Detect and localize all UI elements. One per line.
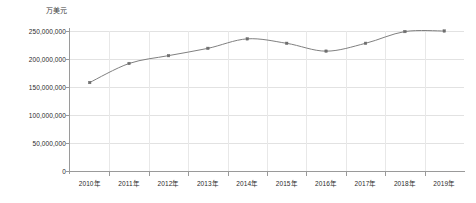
x-axis-tick-mark — [306, 172, 307, 176]
y-axis-tick-label: 250,000,000 — [4, 28, 66, 35]
gridline-vertical — [306, 31, 307, 171]
y-axis-tick-label: 150,000,000 — [4, 84, 66, 91]
x-axis-tick-mark — [425, 172, 426, 176]
line-chart: 万美元 050,000,000100,000,000150,000,000200… — [0, 0, 476, 203]
y-axis-tick-mark — [66, 59, 70, 60]
y-axis-tick-label: 0 — [4, 168, 66, 175]
x-axis-tick-mark — [109, 172, 110, 176]
y-axis-tick-mark — [66, 115, 70, 116]
x-axis-tick-label: 2014年 — [236, 178, 258, 188]
y-axis-tick-mark — [66, 87, 70, 88]
x-axis-tick-label: 2012年 — [158, 178, 180, 188]
y-axis-tick-mark — [66, 143, 70, 144]
x-axis-tick-mark — [188, 172, 189, 176]
x-axis-tick-mark — [385, 172, 386, 176]
y-axis-tick-mark — [66, 31, 70, 32]
x-axis-tick-label: 2011年 — [118, 178, 139, 188]
x-axis-tick-label: 2013年 — [197, 178, 219, 188]
x-axis-tick-label: 2018年 — [394, 178, 416, 188]
gridline-vertical — [425, 31, 426, 171]
gridline-vertical — [267, 31, 268, 171]
x-axis-tick-label: 2017年 — [355, 178, 377, 188]
y-axis-tick-label: 200,000,000 — [4, 56, 66, 63]
gridline-vertical — [346, 31, 347, 171]
x-axis-tick-mark — [149, 172, 150, 176]
x-axis-tick-mark — [228, 172, 229, 176]
x-axis-tick-mark — [267, 172, 268, 176]
y-axis-line — [69, 28, 70, 174]
gridline-vertical — [385, 31, 386, 171]
y-axis-tick-mark — [66, 171, 70, 172]
x-axis-tick-label: 2016年 — [315, 178, 337, 188]
x-axis-tick-label: 2015年 — [276, 178, 298, 188]
gridline-vertical — [109, 31, 110, 171]
gridline-vertical — [188, 31, 189, 171]
x-axis-tick-mark — [346, 172, 347, 176]
gridline-vertical — [149, 31, 150, 171]
gridline-vertical — [228, 31, 229, 171]
y-axis-ticks: 050,000,000100,000,000150,000,000200,000… — [0, 0, 66, 203]
x-axis-tick-label: 2019年 — [433, 178, 455, 188]
x-axis-tick-label: 2010年 — [79, 178, 101, 188]
y-axis-tick-label: 100,000,000 — [4, 112, 66, 119]
y-axis-tick-label: 50,000,000 — [4, 140, 66, 147]
